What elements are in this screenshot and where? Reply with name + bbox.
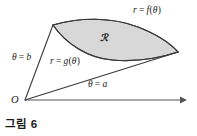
label-region-R: ℛ — [100, 32, 109, 43]
shaded-region-R — [53, 19, 178, 60]
label-inner-curve: r=g(θ) — [50, 56, 80, 67]
ray-theta-a — [25, 52, 178, 100]
label-outer-curve: r=f(θ) — [133, 5, 161, 16]
figure-caption: 그림 6 — [5, 115, 37, 131]
axis-arrowhead — [180, 97, 187, 104]
label-ray-theta-b: θ=b — [12, 52, 31, 62]
polar-region-figure: r=f(θ) r=g(θ) θ=b θ=a ℛ O 그림 6 — [0, 0, 197, 136]
ray-theta-b — [25, 25, 53, 100]
polar-region-diagram: r=f(θ) r=g(θ) θ=b θ=a ℛ O — [0, 0, 197, 118]
label-origin: O — [11, 94, 19, 105]
label-ray-theta-a: θ=a — [88, 79, 107, 89]
